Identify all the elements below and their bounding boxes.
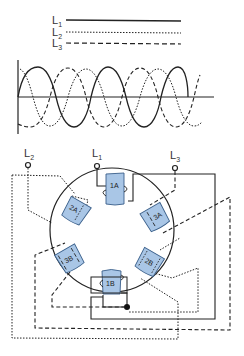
- pole-2a: 2A: [60, 196, 91, 227]
- legend-item-l2: L2: [52, 26, 181, 40]
- pole-1a: 1A: [103, 173, 127, 205]
- svg-text:1B: 1B: [106, 280, 115, 287]
- legend-item-l1: L1: [52, 14, 181, 28]
- motor-schematic: L2 L1 L3: [12, 147, 230, 339]
- terminal-l1: L1: [92, 147, 102, 169]
- pole-3b: 3B: [55, 244, 86, 275]
- legend: L1 L2 L3: [52, 14, 181, 51]
- three-phase-motor-diagram: L1 L2 L3 L2 L1: [0, 0, 244, 356]
- svg-text:L1: L1: [92, 147, 102, 161]
- terminal-l3: L3: [170, 149, 180, 171]
- pole-3a: 3A: [140, 202, 171, 233]
- waveform-plot: [18, 60, 214, 134]
- svg-text:L3: L3: [170, 149, 180, 163]
- terminal-l2: L2: [24, 147, 34, 168]
- svg-text:L2: L2: [24, 147, 34, 161]
- legend-item-l3: L3: [52, 37, 181, 51]
- pole-2b: 2B: [134, 247, 165, 278]
- svg-text:1A: 1A: [110, 182, 119, 189]
